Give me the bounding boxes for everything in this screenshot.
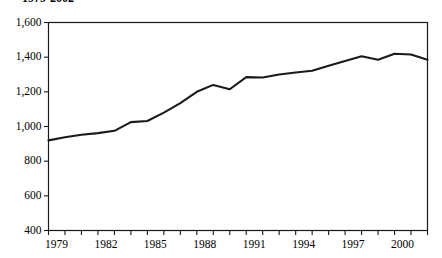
x-tick-label: 2000 (373, 239, 433, 250)
y-tick-label: 800 (24, 155, 41, 166)
y-tick-label: 1,600 (16, 17, 42, 28)
y-tick-label: 1,200 (16, 86, 42, 97)
y-tick-label: 400 (24, 225, 41, 236)
axis-lines (49, 23, 428, 231)
line-chart-figure: 1979-2002 1,6001,4001,2001,000800600400 … (0, 0, 442, 258)
y-tick-label: 1,000 (16, 121, 42, 132)
y-tick-label: 600 (24, 190, 41, 201)
axis-ticks (44, 23, 428, 236)
data-series-line (49, 54, 428, 141)
plot-area-svg (0, 0, 442, 258)
y-tick-label: 1,400 (16, 51, 42, 62)
